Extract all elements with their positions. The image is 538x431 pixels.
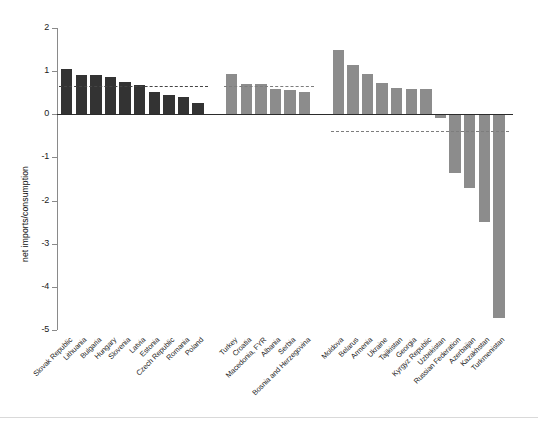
bar — [226, 74, 237, 114]
group-average-reference-line — [224, 86, 314, 87]
bar — [61, 69, 72, 114]
bar — [376, 83, 387, 114]
y-tick-mark — [52, 201, 57, 202]
y-tick-label: -1 — [23, 151, 49, 161]
bar — [270, 89, 281, 114]
bar — [76, 75, 87, 115]
y-axis-line — [57, 28, 58, 330]
bar — [347, 65, 358, 115]
y-tick-mark — [52, 28, 57, 29]
footer-divider — [0, 417, 538, 418]
bar — [163, 95, 174, 114]
plot-area: 210-1-2-3-4-5net imports/consumptionSlov… — [0, 0, 538, 431]
y-tick-mark — [52, 157, 57, 158]
y-tick-label: 0 — [23, 108, 49, 118]
bar — [464, 114, 475, 187]
bar-chart: 210-1-2-3-4-5net imports/consumptionSlov… — [0, 0, 538, 431]
y-tick-mark — [52, 71, 57, 72]
bar — [362, 74, 373, 114]
bar — [391, 88, 402, 114]
y-axis-title: net imports/consumption — [20, 166, 30, 262]
y-tick-label: 1 — [23, 65, 49, 75]
bar — [284, 90, 295, 115]
bar — [493, 114, 504, 318]
bar — [299, 92, 310, 114]
y-tick-label: -5 — [23, 324, 49, 334]
y-tick-mark — [52, 330, 57, 331]
y-tick-label: 2 — [23, 22, 49, 32]
bar — [149, 92, 160, 114]
bar — [449, 114, 460, 172]
y-tick-mark — [52, 244, 57, 245]
bar — [406, 89, 417, 114]
bar — [134, 85, 145, 114]
bar — [420, 89, 431, 114]
y-tick-mark — [52, 287, 57, 288]
bar — [90, 75, 101, 114]
group-average-reference-line — [331, 131, 509, 132]
zero-baseline — [57, 114, 513, 115]
bar — [333, 50, 344, 115]
bar — [255, 84, 266, 114]
bar — [192, 103, 203, 115]
bar — [241, 84, 252, 115]
group-average-reference-line — [59, 86, 208, 87]
bar — [105, 77, 116, 115]
bar — [178, 97, 189, 114]
y-tick-label: -4 — [23, 281, 49, 291]
